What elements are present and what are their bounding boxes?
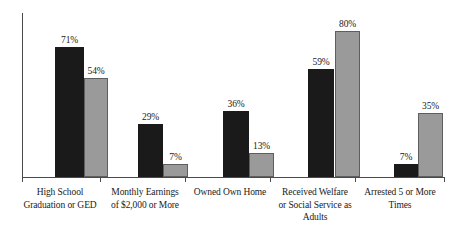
category-label-line: Times	[346, 199, 453, 212]
bar-series-a-3	[308, 69, 334, 177]
category-label-line: of $2,000 or More	[91, 199, 199, 212]
bar-value-label: 36%	[218, 99, 254, 109]
x-axis-tick	[355, 178, 356, 182]
bar-series-b-1	[163, 164, 188, 177]
bar-value-label: 29%	[133, 112, 169, 122]
x-axis-tick	[22, 178, 23, 182]
bar-value-label: 54%	[78, 66, 114, 76]
bar-series-a-1	[138, 124, 163, 177]
bar-series-b-3	[335, 31, 360, 177]
x-axis-tick	[444, 178, 445, 182]
bar-value-label: 59%	[303, 57, 339, 67]
x-axis-tick	[185, 178, 186, 182]
category-label-line: Arrested 5 or More	[346, 186, 453, 199]
bar-value-label: 13%	[244, 141, 280, 151]
plot-area: 71%54%29%7%36%13%59%80%7%35%	[22, 13, 445, 178]
bar-chart: 71%54%29%7%36%13%59%80%7%35% High School…	[0, 0, 453, 231]
bar-series-b-0	[84, 78, 108, 177]
bar-series-b-2	[249, 153, 274, 177]
bar-value-label: 35%	[413, 101, 449, 111]
bar-series-b-4	[418, 113, 443, 177]
category-label-line: Adults	[261, 211, 369, 224]
bar-value-label: 71%	[52, 35, 88, 45]
bar-series-a-4	[394, 164, 418, 177]
x-axis-tick	[270, 178, 271, 182]
x-axis-tick	[100, 178, 101, 182]
bar-value-label: 80%	[330, 19, 366, 29]
category-label-4: Arrested 5 or MoreTimes	[346, 186, 453, 211]
bar-value-label: 7%	[158, 152, 194, 162]
